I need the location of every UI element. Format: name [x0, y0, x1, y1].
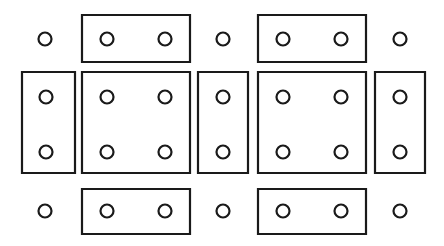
hole-circle-icon [394, 146, 407, 159]
free-hole-circle-icon: Top row right free hole [394, 33, 407, 46]
rectangle-layer: Top left wide panelTop right wide panelM… [22, 15, 425, 234]
diagram-canvas: Top left wide panelTop right wide panelM… [0, 0, 444, 246]
hole-circle-icon [335, 146, 348, 159]
hole-circle-icon [159, 146, 172, 159]
hole-circle-icon [335, 205, 348, 218]
hole-circle-icon [101, 33, 114, 46]
free-hole-circle-icon: Bottom row left free hole [39, 205, 52, 218]
hole-circle-icon [277, 205, 290, 218]
hole-circle-icon [217, 91, 230, 104]
hole-circle-icon [335, 91, 348, 104]
hole-circle-icon [159, 205, 172, 218]
free-hole-circle-icon: Top row center free hole [217, 33, 230, 46]
panel-rectangle-wide: Bottom right wide panel [258, 189, 366, 234]
hole-circle-icon [277, 91, 290, 104]
hole-circle-icon [277, 146, 290, 159]
free-hole-circle-icon: Bottom row center free hole [217, 205, 230, 218]
hole-circle-icon [40, 146, 53, 159]
hole-circle-icon [159, 91, 172, 104]
hole-circle-icon [101, 205, 114, 218]
panel-rectangle-wide: Top left wide panel [82, 15, 190, 62]
panel-rectangle-wide: Top right wide panel [258, 15, 366, 62]
hole-circle-icon [277, 33, 290, 46]
free-hole-circle-icon: Bottom row right free hole [394, 205, 407, 218]
hole-circle-icon [101, 146, 114, 159]
hole-circle-icon [394, 91, 407, 104]
panel-hole-pattern-diagram: Top left wide panelTop right wide panelM… [0, 0, 444, 246]
hole-circle-icon [40, 91, 53, 104]
panel-rectangle-square: Middle right square panel [258, 72, 366, 173]
hole-circle-icon [217, 146, 230, 159]
hole-circle-icon [101, 91, 114, 104]
panel-rectangle-wide: Bottom left wide panel [82, 189, 190, 234]
hole-circle-icon [159, 33, 172, 46]
hole-circle-icon [335, 33, 348, 46]
free-hole-circle-icon: Top row left free hole [39, 33, 52, 46]
panel-rectangle-square: Middle left square panel [82, 72, 190, 173]
